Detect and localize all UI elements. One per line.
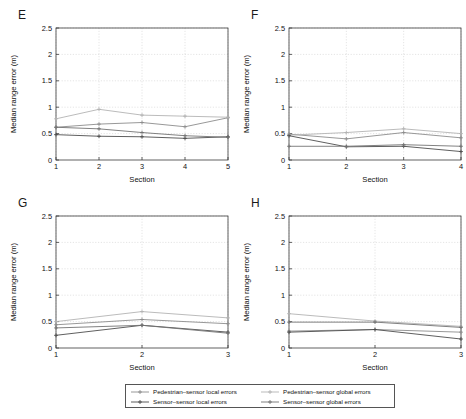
svg-text:Section: Section bbox=[129, 363, 154, 372]
svg-text:Median range error (m): Median range error (m) bbox=[242, 242, 251, 321]
svg-text:1: 1 bbox=[287, 162, 291, 171]
svg-text:0.5: 0.5 bbox=[42, 129, 52, 138]
plot-area-E: 00.511.522.512345SectionMedian range err… bbox=[0, 0, 233, 188]
svg-text:0: 0 bbox=[281, 156, 285, 165]
svg-text:2.5: 2.5 bbox=[42, 212, 52, 221]
svg-text:2: 2 bbox=[344, 162, 348, 171]
svg-text:2: 2 bbox=[48, 238, 52, 247]
svg-text:1: 1 bbox=[54, 162, 58, 171]
svg-text:2: 2 bbox=[48, 50, 52, 59]
svg-text:2: 2 bbox=[373, 350, 377, 359]
legend-row-1: Pedestrian–sensor local errors Pedestria… bbox=[130, 387, 390, 397]
chart-panel-E: E 00.511.522.512345SectionMedian range e… bbox=[0, 0, 233, 188]
svg-text:0.5: 0.5 bbox=[275, 129, 285, 138]
legend-item-sensor-sensor-local-errors: Sensor–sensor local errors bbox=[130, 398, 260, 406]
chart-panel-G: G 00.511.522.5123SectionMedian range err… bbox=[0, 188, 233, 376]
svg-text:0: 0 bbox=[48, 344, 52, 353]
legend-label: Sensor–sensor local errors bbox=[153, 399, 227, 405]
plot-area-G: 00.511.522.5123SectionMedian range error… bbox=[0, 188, 233, 376]
svg-text:1: 1 bbox=[281, 103, 285, 112]
legend-label: Pedestrian–sensor global errors bbox=[283, 389, 371, 395]
svg-text:4: 4 bbox=[183, 162, 187, 171]
svg-text:1.5: 1.5 bbox=[42, 264, 52, 273]
svg-text:Median range error (m): Median range error (m) bbox=[9, 242, 18, 321]
legend-marker-icon bbox=[260, 388, 280, 396]
svg-text:5: 5 bbox=[226, 162, 230, 171]
svg-text:0.5: 0.5 bbox=[275, 317, 285, 326]
svg-text:Section: Section bbox=[362, 363, 387, 372]
legend-marker-icon bbox=[130, 398, 150, 406]
svg-text:1.5: 1.5 bbox=[275, 76, 285, 85]
legend-item-pedestrian-sensor-local-errors: Pedestrian–sensor local errors bbox=[130, 388, 260, 396]
figure-legend: Pedestrian–sensor local errors Pedestria… bbox=[125, 384, 395, 408]
svg-text:1: 1 bbox=[281, 291, 285, 300]
svg-text:3: 3 bbox=[140, 162, 144, 171]
legend-marker-icon bbox=[130, 388, 150, 396]
svg-text:3: 3 bbox=[459, 350, 463, 359]
svg-text:4: 4 bbox=[459, 162, 463, 171]
svg-text:1.5: 1.5 bbox=[42, 76, 52, 85]
legend-item-pedestrian-sensor-global-errors: Pedestrian–sensor global errors bbox=[260, 388, 390, 396]
svg-text:2: 2 bbox=[281, 50, 285, 59]
svg-text:2.5: 2.5 bbox=[42, 24, 52, 33]
svg-text:1: 1 bbox=[48, 103, 52, 112]
svg-text:1.5: 1.5 bbox=[275, 264, 285, 273]
svg-text:0: 0 bbox=[48, 156, 52, 165]
chart-panel-H: H 00.511.522.5123SectionMedian range err… bbox=[233, 188, 466, 376]
svg-text:2.5: 2.5 bbox=[275, 24, 285, 33]
svg-text:Section: Section bbox=[129, 175, 154, 184]
svg-text:0.5: 0.5 bbox=[42, 317, 52, 326]
svg-text:1: 1 bbox=[54, 350, 58, 359]
svg-text:2: 2 bbox=[140, 350, 144, 359]
svg-text:0: 0 bbox=[281, 344, 285, 353]
svg-text:3: 3 bbox=[226, 350, 230, 359]
plot-area-F: 00.511.522.51234SectionMedian range erro… bbox=[233, 0, 466, 188]
svg-text:Median range error (m): Median range error (m) bbox=[242, 54, 251, 133]
legend-row-2: Sensor–sensor local errors Sensor–sensor… bbox=[130, 397, 390, 407]
svg-text:2.5: 2.5 bbox=[275, 212, 285, 221]
svg-text:1: 1 bbox=[287, 350, 291, 359]
legend-marker-icon bbox=[260, 398, 280, 406]
legend-item-sensor-sensor-global-errors: Sensor–sensor global errors bbox=[260, 398, 390, 406]
svg-text:2: 2 bbox=[97, 162, 101, 171]
svg-text:3: 3 bbox=[402, 162, 406, 171]
chart-panel-F: F 00.511.522.51234SectionMedian range er… bbox=[233, 0, 466, 188]
svg-text:2: 2 bbox=[281, 238, 285, 247]
legend-label: Sensor–sensor global errors bbox=[283, 399, 361, 405]
svg-text:1: 1 bbox=[48, 291, 52, 300]
svg-text:Median range error (m): Median range error (m) bbox=[9, 54, 18, 133]
legend-label: Pedestrian–sensor local errors bbox=[153, 389, 237, 395]
figure-panel-grid: E 00.511.522.512345SectionMedian range e… bbox=[0, 0, 466, 376]
plot-area-H: 00.511.522.5123SectionMedian range error… bbox=[233, 188, 466, 376]
svg-text:Section: Section bbox=[362, 175, 387, 184]
